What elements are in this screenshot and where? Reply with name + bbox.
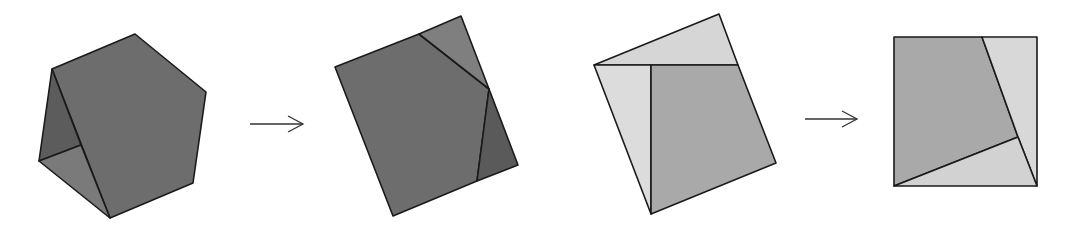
figures-group xyxy=(39,14,1037,218)
tilted-left-piece xyxy=(594,65,651,214)
tilted-main-face xyxy=(651,65,776,214)
rectangle-from-hexagon xyxy=(335,16,518,216)
hexagon-folded xyxy=(39,34,206,218)
tilted-rectangle xyxy=(594,14,776,214)
arrow-1-icon xyxy=(250,116,303,132)
tilted-top-triangle xyxy=(594,14,738,65)
arrow-2-icon xyxy=(805,111,857,127)
square-result xyxy=(894,37,1037,186)
diagram-canvas xyxy=(0,0,1070,227)
dissection-diagram xyxy=(0,0,1070,227)
arrows-group xyxy=(250,111,857,132)
